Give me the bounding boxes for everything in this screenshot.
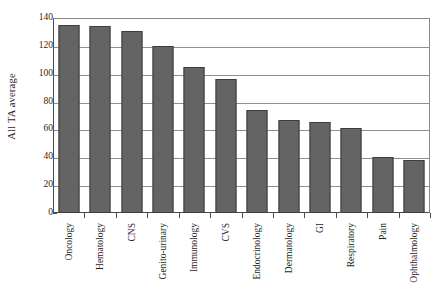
- x-tick-mark: [116, 213, 117, 218]
- x-tick-label: Endocrinology: [252, 223, 262, 279]
- y-tick-label: 0: [27, 208, 53, 218]
- y-tick-label: 80: [27, 97, 53, 107]
- bar-slot: [273, 18, 304, 213]
- bar[interactable]: [58, 25, 79, 213]
- x-tick-mark: [179, 213, 180, 218]
- bar-slot: [242, 18, 273, 213]
- x-tick-mark: [210, 213, 211, 218]
- x-tick-label: Ophthalmology: [409, 223, 419, 283]
- bar[interactable]: [310, 122, 331, 213]
- y-tick-label: 140: [27, 13, 53, 23]
- x-label-slot: Genito-urinary: [147, 219, 178, 307]
- x-tick-mark: [84, 213, 85, 218]
- x-tick-mark: [430, 213, 431, 218]
- x-label-slot: Ophthalmology: [399, 219, 430, 307]
- bar-slot: [210, 18, 241, 213]
- bar-slot: [399, 18, 430, 213]
- bar[interactable]: [372, 157, 393, 213]
- bar-slot: [116, 18, 147, 213]
- y-tick-label: 60: [27, 125, 53, 135]
- x-tick-mark: [273, 213, 274, 218]
- y-tick-label: 120: [27, 41, 53, 51]
- x-label-slot: CNS: [116, 219, 147, 307]
- bar-slot: [147, 18, 178, 213]
- x-label-slot: Immunology: [179, 219, 210, 307]
- x-label-slot: Respiratory: [336, 219, 367, 307]
- x-tick-mark: [399, 213, 400, 218]
- y-tick-label: 100: [27, 69, 53, 79]
- bar[interactable]: [121, 31, 142, 213]
- bar-slot: [336, 18, 367, 213]
- bar[interactable]: [215, 79, 236, 213]
- bar-slot: [367, 18, 398, 213]
- x-tick-mark: [336, 213, 337, 218]
- bar[interactable]: [404, 160, 425, 213]
- bars-layer: [53, 18, 430, 213]
- x-tick-label: Respiratory: [346, 223, 356, 267]
- bar[interactable]: [90, 26, 111, 213]
- bar[interactable]: [247, 110, 268, 213]
- y-axis-ticks: 020406080100120140: [18, 18, 53, 213]
- bar-slot: [84, 18, 115, 213]
- bar-slot: [53, 18, 84, 213]
- x-tick-mark: [147, 213, 148, 218]
- y-tick-label: 20: [27, 180, 53, 190]
- x-label-slot: Endocrinology: [242, 219, 273, 307]
- x-tick-label: Oncology: [64, 223, 74, 260]
- x-tick-label: Hematology: [95, 223, 105, 270]
- bar-slot: [304, 18, 335, 213]
- x-tick-label: CVS: [221, 223, 231, 241]
- bar[interactable]: [152, 46, 173, 213]
- x-tick-mark: [304, 213, 305, 218]
- x-tick-label: CNS: [127, 223, 137, 241]
- bar[interactable]: [278, 120, 299, 213]
- x-tick-mark: [242, 213, 243, 218]
- bar-chart: All TA average 020406080100120140 Oncolo…: [0, 0, 440, 307]
- x-label-slot: Pain: [367, 219, 398, 307]
- x-label-slot: Dermatology: [273, 219, 304, 307]
- x-tick-label: Dermatology: [284, 223, 294, 273]
- x-tick-label: Pain: [378, 223, 388, 240]
- y-axis-title-label: All TA average: [6, 73, 17, 140]
- x-tick-label: Immunology: [189, 223, 199, 272]
- x-label-slot: Hematology: [84, 219, 115, 307]
- bar[interactable]: [184, 67, 205, 213]
- x-tick-label: Genito-urinary: [158, 223, 168, 279]
- x-tick-mark: [367, 213, 368, 218]
- x-tick-label: GI: [315, 223, 325, 233]
- x-axis-labels: OncologyHematologyCNSGenito-urinaryImmun…: [53, 219, 430, 307]
- bar[interactable]: [341, 128, 362, 213]
- bar-slot: [179, 18, 210, 213]
- y-tick-label: 40: [27, 152, 53, 162]
- x-label-slot: GI: [304, 219, 335, 307]
- x-label-slot: Oncology: [53, 219, 84, 307]
- x-label-slot: CVS: [210, 219, 241, 307]
